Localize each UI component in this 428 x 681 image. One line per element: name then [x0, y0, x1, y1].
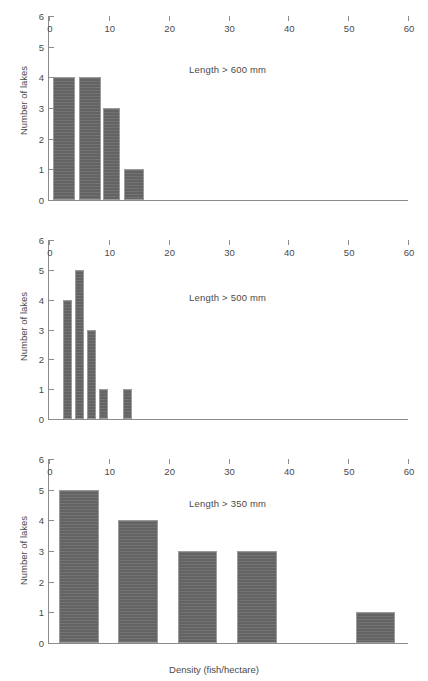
x-tick: 60: [408, 240, 409, 245]
plot-area-bottom: 6 5 4 3 2 1 0 0 10 20 30 40 50 60 Length…: [48, 459, 408, 644]
x-tick-label: 20: [164, 22, 175, 35]
x-tick-label: 60: [404, 465, 415, 478]
x-tick: 10: [109, 240, 110, 245]
annotation-top: Length > 600 mm: [189, 64, 266, 75]
bar: [99, 389, 108, 419]
panel-bottom: Number of lakes 6 5 4 3 2 1 0 0 10 20 30…: [0, 450, 428, 681]
y-tick-label: 6: [39, 453, 44, 466]
x-tick: 0: [49, 16, 50, 21]
annotation-bottom: Length > 350 mm: [189, 498, 266, 509]
y-tick: 4: [49, 520, 54, 521]
x-tick: 0: [49, 240, 50, 245]
y-tick: 4: [49, 77, 54, 78]
x-tick: 40: [288, 240, 289, 245]
x-tick-label: 50: [344, 465, 355, 478]
y-tick-label: 2: [39, 576, 44, 589]
y-tick: 3: [49, 330, 54, 331]
y-tick-label: 2: [39, 353, 44, 366]
y-tick-label: 5: [39, 484, 44, 497]
bar: [53, 77, 75, 200]
y-tick: 2: [49, 359, 54, 360]
x-tick: 0: [49, 459, 50, 464]
bar: [237, 551, 276, 643]
x-tick: 50: [348, 16, 349, 21]
y-tick-label: 5: [39, 264, 44, 277]
plot-area-middle: 6 5 4 3 2 1 0 0 10 20 30 40 50 60 Length…: [48, 240, 408, 420]
x-tick: 10: [109, 459, 110, 464]
x-tick-label: 40: [284, 246, 295, 259]
x-tick: 40: [288, 459, 289, 464]
x-tick-label: 0: [47, 22, 52, 35]
y-tick: 5: [49, 47, 54, 48]
x-tick-label: 60: [404, 22, 415, 35]
y-tick-label: 1: [39, 383, 44, 396]
x-tick: 50: [348, 240, 349, 245]
bar: [103, 108, 120, 200]
y-tick: 2: [49, 582, 54, 583]
bar: [178, 551, 217, 643]
y-axis-label-top: Number of lakes: [18, 56, 29, 146]
x-tick-label: 40: [284, 465, 295, 478]
figure-histograms-fish-density: Number of lakes 6 5 4 3 2 1 0 0 10 20 30…: [0, 0, 428, 681]
y-tick-label: 4: [39, 514, 44, 527]
x-tick-label: 30: [224, 22, 235, 35]
bar: [63, 300, 72, 419]
x-tick-label: 50: [344, 22, 355, 35]
y-tick-label: 5: [39, 41, 44, 54]
x-tick: 20: [169, 459, 170, 464]
y-tick: 5: [49, 490, 54, 491]
x-tick-label: 10: [105, 246, 116, 259]
y-tick-label: 4: [39, 71, 44, 84]
bars-middle: [49, 240, 408, 419]
x-tick-label: 20: [164, 465, 175, 478]
y-axis-label-bottom: Number of lakes: [18, 506, 29, 596]
y-axis-label-middle: Number of lakes: [18, 282, 29, 372]
y-tick: 5: [49, 270, 54, 271]
y-tick-label: 6: [39, 10, 44, 23]
bar: [123, 389, 132, 419]
y-tick: 1: [49, 389, 54, 390]
y-tick-label: 1: [39, 606, 44, 619]
x-tick: 20: [169, 240, 170, 245]
panel-top: Number of lakes 6 5 4 3 2 1 0 0 10 20 30…: [0, 0, 428, 228]
y-tick: 0: [49, 200, 54, 201]
x-tick-label: 40: [284, 22, 295, 35]
y-tick-label: 6: [39, 234, 44, 247]
x-tick: 20: [169, 16, 170, 21]
y-tick-label: 1: [39, 163, 44, 176]
y-tick: 0: [49, 643, 54, 644]
x-axis-label: Density (fish/hectare): [0, 664, 428, 675]
panel-middle: Number of lakes 6 5 4 3 2 1 0 0 10 20 30…: [0, 228, 428, 450]
y-tick-label: 0: [39, 413, 44, 426]
y-tick: 1: [49, 612, 54, 613]
x-tick: 40: [288, 16, 289, 21]
y-tick: 1: [49, 169, 54, 170]
plot-area-top: 6 5 4 3 2 1 0 0 10 20 30 40 50 60 Length…: [48, 16, 408, 201]
x-tick: 30: [229, 459, 230, 464]
x-tick: 60: [408, 16, 409, 21]
x-tick-label: 30: [224, 465, 235, 478]
x-tick-label: 10: [105, 465, 116, 478]
x-tick-label: 60: [404, 246, 415, 259]
x-tick-label: 20: [164, 246, 175, 259]
x-tick: 60: [408, 459, 409, 464]
bar: [79, 77, 101, 200]
x-tick-label: 50: [344, 246, 355, 259]
x-tick: 10: [109, 16, 110, 21]
y-tick-label: 0: [39, 194, 44, 207]
y-tick-label: 2: [39, 133, 44, 146]
x-tick: 30: [229, 240, 230, 245]
y-tick-label: 4: [39, 294, 44, 307]
bar: [118, 520, 158, 643]
x-tick-label: 30: [224, 246, 235, 259]
y-tick: 2: [49, 139, 54, 140]
x-tick-label: 0: [47, 465, 52, 478]
y-tick-label: 3: [39, 545, 44, 558]
y-tick-label: 0: [39, 637, 44, 650]
y-tick: 3: [49, 108, 54, 109]
x-tick-label: 10: [105, 22, 116, 35]
bar: [124, 169, 143, 200]
y-tick-label: 3: [39, 102, 44, 115]
x-tick: 50: [348, 459, 349, 464]
bars-bottom: [49, 459, 408, 643]
